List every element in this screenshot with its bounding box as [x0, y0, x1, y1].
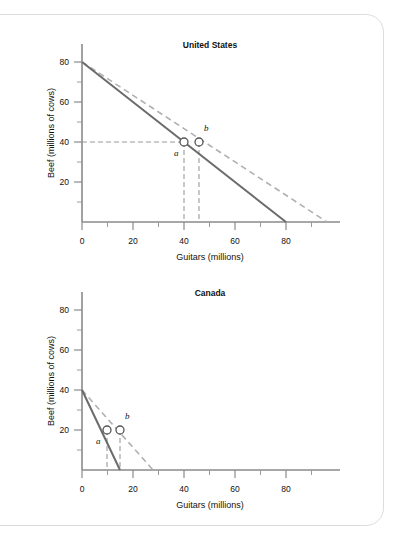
- y-tick-label-60: 60: [60, 97, 70, 107]
- x-tick-label-20: 20: [128, 236, 138, 246]
- y-tick-label-60: 60: [60, 345, 70, 355]
- x-tick-label-20: 20: [128, 484, 138, 494]
- y-tick-label-40: 40: [60, 137, 70, 147]
- x-tick-label-40: 40: [179, 236, 189, 246]
- x-tick-label-0: 0: [80, 236, 85, 246]
- y-tick-labels-canada: 80 60 40 20: [60, 305, 70, 435]
- x-tick-label-80: 80: [281, 236, 291, 246]
- chart-svg-united-states: United States: [40, 14, 360, 262]
- data-point-a: [103, 426, 111, 434]
- x-tick-label-40: 40: [179, 484, 189, 494]
- y-tick-label-40: 40: [60, 385, 70, 395]
- y-tick-label-80: 80: [60, 57, 70, 67]
- data-point-label-b: b: [125, 411, 130, 421]
- axes-united-states: [82, 44, 340, 222]
- chart-title-united-states: United States: [183, 40, 238, 50]
- data-point-label-a: a: [96, 436, 101, 446]
- axes-canada: [82, 292, 340, 470]
- y-axis-label-united-states: Beef (millions of cows): [46, 88, 56, 178]
- x-tick-label-0: 0: [80, 484, 85, 494]
- y-tick-label-20: 20: [60, 425, 70, 435]
- x-tick-labels-united-states: 0 20 40 60 80: [80, 236, 291, 246]
- x-axis-label-canada: Guitars (millions): [176, 500, 244, 510]
- data-point-label-b: b: [204, 123, 209, 133]
- data-point-b: [195, 138, 203, 146]
- x-tick-label-60: 60: [230, 236, 240, 246]
- chart-panel-united-states: United States: [40, 14, 360, 262]
- data-point-label-a: a: [174, 148, 179, 158]
- chart-svg-canada: Canada: [40, 262, 360, 510]
- x-tick-label-80: 80: [281, 484, 291, 494]
- series-solid-ppf-line: [82, 390, 120, 470]
- x-tick-label-60: 60: [230, 484, 240, 494]
- y-tick-label-80: 80: [60, 305, 70, 315]
- y-axis-label-canada: Beef (millions of cows): [46, 336, 56, 426]
- x-major-ticks-canada: [82, 470, 286, 478]
- chart-panel-canada: Canada: [40, 262, 360, 510]
- y-tick-labels-united-states: 80 60 40 20: [60, 57, 70, 187]
- chart-title-canada: Canada: [195, 288, 226, 298]
- x-axis-label-united-states: Guitars (millions): [176, 252, 244, 262]
- x-major-ticks-united-states: [82, 222, 286, 230]
- data-point-b: [116, 426, 124, 434]
- x-tick-labels-canada: 0 20 40 60 80: [80, 484, 291, 494]
- y-tick-label-20: 20: [60, 177, 70, 187]
- data-point-a: [180, 138, 188, 146]
